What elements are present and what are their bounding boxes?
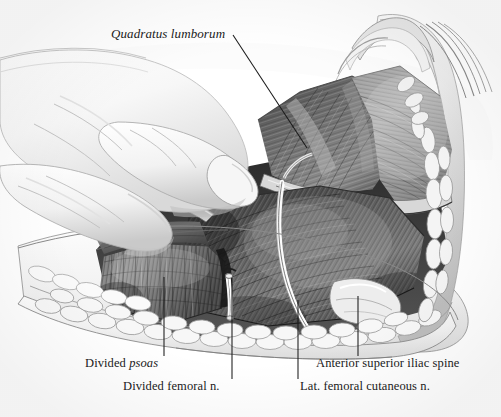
label-anterior-superior-iliac-spine: Anterior superior iliac spine — [316, 357, 459, 370]
label-lateral-femoral-cutaneous-nerve: Lat. femoral cutaneous n. — [300, 380, 430, 393]
label-anterior-superior-iliac-spine-text: Anterior superior iliac spine — [316, 356, 459, 370]
label-divided-femoral-nerve: Divided femoral n. — [123, 380, 220, 393]
label-divided-psoas-prefix: Divided — [85, 356, 129, 370]
label-divided-psoas-italic: psoas — [129, 356, 158, 370]
label-divided-femoral-nerve-text: Divided femoral n. — [123, 379, 220, 393]
label-lateral-femoral-cutaneous-nerve-text: Lat. femoral cutaneous n. — [300, 379, 430, 393]
illustration-artwork — [0, 0, 501, 417]
label-quadratus-lumborum-text: Quadratus lumborum — [111, 26, 225, 41]
label-divided-psoas: Divided psoas — [85, 357, 158, 370]
surgical-anatomy-figure: Quadratus lumborum Divided psoas Divided… — [0, 0, 501, 417]
label-quadratus-lumborum: Quadratus lumborum — [111, 27, 225, 41]
